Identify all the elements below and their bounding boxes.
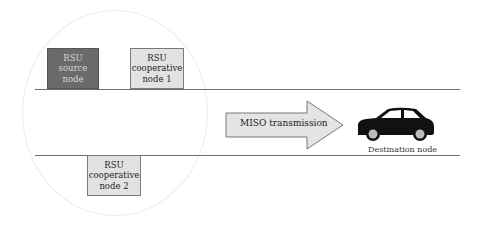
rsu-cooperative-node-1-label: RSU cooperative node 1	[132, 53, 183, 85]
rsu-cooperative-node-2: RSU cooperative node 2	[87, 155, 141, 196]
rsu-cooperative-node-1: RSU cooperative node 1	[130, 48, 184, 89]
rsu-source-node-label: RSU source node	[59, 53, 88, 85]
rsu-source-node: RSU source node	[47, 48, 99, 89]
miso-transmission-label: MISO transmission	[240, 118, 328, 128]
car-icon	[356, 107, 436, 143]
rsu-cooperative-node-2-label: RSU cooperative node 2	[89, 160, 140, 192]
destination-node-label: Destination node	[368, 145, 437, 154]
road-top-line	[35, 89, 460, 90]
